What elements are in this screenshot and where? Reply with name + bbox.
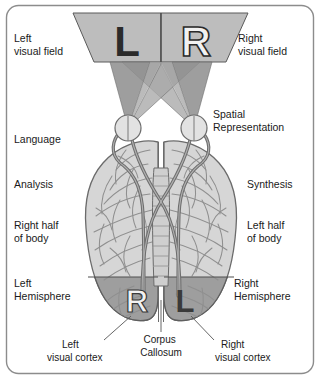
letter-R-cortex: R: [126, 284, 148, 319]
letter-R-field: R: [181, 18, 211, 65]
label-analysis: Analysis: [14, 178, 53, 190]
brain: [86, 141, 237, 322]
label-left-half-of-body: Left half of body: [247, 219, 287, 244]
split-brain-diagram-svg: L R: [0, 0, 321, 390]
letter-L-field: L: [114, 18, 140, 65]
corpus-callosum-body: [153, 168, 170, 286]
diagram-figure: L R: [0, 0, 321, 390]
visual-field-plane: [73, 13, 248, 62]
label-synthesis: Synthesis: [247, 178, 293, 190]
letter-L-cortex: L: [176, 284, 195, 319]
label-language: Language: [14, 133, 61, 145]
